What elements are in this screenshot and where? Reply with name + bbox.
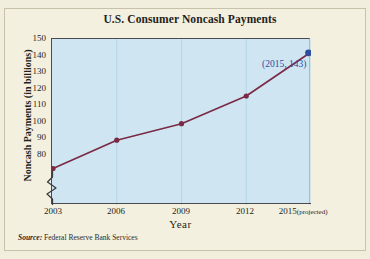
x-tick-label-suffix: (projected) (297, 208, 328, 216)
x-tick-label-year: 2015 (279, 206, 297, 216)
source-note: Source: Federal Reserve Bank Services (18, 233, 138, 242)
chart-title: U.S. Consumer Noncash Payments (40, 13, 340, 25)
x-axis-line (51, 203, 311, 204)
x-tick-label: 2009 (172, 206, 190, 216)
figure-container: U.S. Consumer Noncash Payments (0, 0, 370, 259)
y-axis-title: Noncash Payments (in billions) (22, 31, 33, 201)
x-tick-label-projected: 2015(projected) (279, 206, 328, 216)
x-tick-label: 2012 (236, 206, 254, 216)
x-axis-title: Year (51, 218, 310, 230)
axis-break-icon (44, 171, 60, 205)
x-tick-label: 2006 (107, 206, 125, 216)
data-point-annotation: (2015, 143) (262, 59, 306, 69)
source-label: Source: (18, 233, 42, 242)
source-text: Federal Reserve Bank Services (44, 233, 138, 242)
x-tick-label: 2003 (44, 206, 62, 216)
